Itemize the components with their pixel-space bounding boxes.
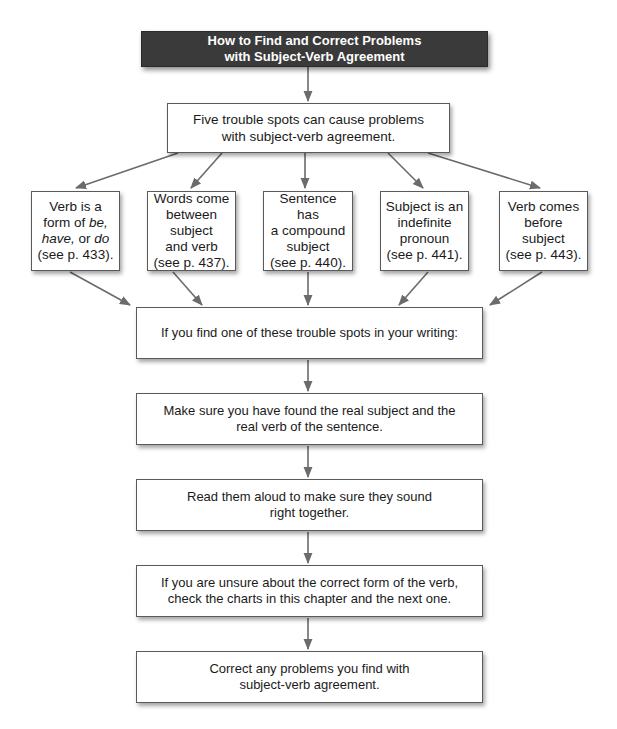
title-line-1: How to Find and Correct Problems: [208, 33, 422, 49]
trouble-spot-verb-before-subject: Verb comes before subject (see p. 443).: [499, 191, 588, 271]
flowchart-title: How to Find and Correct Problems with Su…: [141, 31, 488, 67]
arrow-spot-2-to-step-1: [173, 272, 202, 305]
step-5-box: Correct any problems you find with subje…: [136, 651, 483, 703]
step-4-box: If you are unsure about the correct form…: [136, 565, 483, 617]
step-3-box: Read them aloud to make sure they sound …: [136, 479, 483, 531]
arrow-intro-to-spot-4: [388, 153, 423, 188]
step-3-text: Read them aloud to make sure they sound …: [187, 489, 432, 521]
spot-1-line-4: (see p. 433).: [38, 247, 114, 263]
step-1-text: If you find one of these trouble spots i…: [161, 325, 458, 341]
trouble-spot-indefinite-pronoun: Subject is an indefinite pronoun (see p.…: [380, 191, 469, 271]
arrow-intro-to-spot-5: [428, 153, 540, 188]
arrow-intro-to-spot-2: [191, 153, 222, 188]
arrow-spot-4-to-step-1: [399, 272, 428, 305]
step-1-box: If you find one of these trouble spots i…: [136, 307, 483, 359]
spot-1-line-1: Verb is a: [38, 199, 114, 215]
spot-1-be: be,: [89, 215, 108, 230]
spot-1-have: have,: [42, 231, 75, 246]
spot-2-text: Words come between subject and verb (see…: [154, 191, 230, 271]
trouble-spot-verb-form: Verb is a form of be, have, or do (see p…: [31, 191, 120, 271]
intro-text: Five trouble spots can cause problems wi…: [193, 111, 424, 145]
spot-1-line-2-text: form of: [43, 215, 89, 230]
trouble-spot-words-between: Words come between subject and verb (see…: [147, 191, 236, 271]
step-2-text: Make sure you have found the real subjec…: [164, 403, 456, 435]
step-5-text: Correct any problems you find with subje…: [209, 661, 409, 693]
step-2-box: Make sure you have found the real subjec…: [136, 393, 483, 445]
trouble-spot-compound-subject: Sentence has a compound subject (see p. …: [263, 191, 353, 271]
spot-5-text: Verb comes before subject (see p. 443).: [506, 199, 582, 263]
spot-3-text: Sentence has a compound subject (see p. …: [268, 191, 348, 271]
step-4-text: If you are unsure about the correct form…: [161, 575, 458, 607]
spot-1-or: or: [75, 231, 95, 246]
spot-1-line-2: form of be,: [38, 215, 114, 231]
spot-1-line-3: have, or do: [38, 231, 114, 247]
spot-4-text: Subject is an indefinite pronoun (see p.…: [386, 199, 463, 263]
intro-box: Five trouble spots can cause problems wi…: [167, 103, 450, 153]
title-line-2: with Subject-Verb Agreement: [208, 49, 422, 65]
arrow-spot-5-to-step-1: [490, 272, 542, 305]
arrow-intro-to-spot-1: [76, 153, 178, 188]
arrow-spot-1-to-step-1: [70, 272, 130, 305]
spot-1-do: do: [94, 231, 109, 246]
